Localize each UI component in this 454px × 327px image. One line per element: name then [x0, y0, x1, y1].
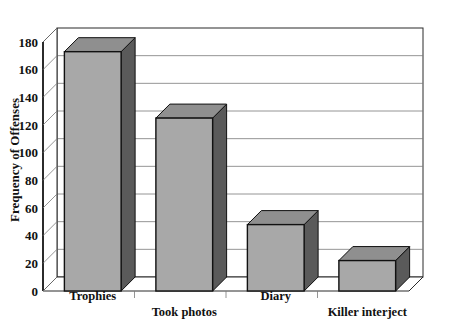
y-axis-title: Frequency of Offenses: [7, 98, 22, 222]
y-tick-label: 160: [19, 62, 39, 77]
y-tick-label: 80: [25, 173, 38, 188]
x-tick-label: Trophies: [69, 289, 116, 303]
bar-front-face: [247, 225, 304, 291]
bar-side-face: [213, 104, 227, 291]
y-tick-label: 60: [25, 201, 38, 216]
y-tick-label: 180: [19, 35, 39, 50]
bar-front-face: [156, 118, 213, 291]
x-tick-label: Took photos: [152, 305, 217, 319]
x-tick-label: Diary: [260, 289, 291, 303]
x-tick-label: Killer interject: [328, 305, 408, 319]
x-axis-tick-labels: TrophiesTook photosDiaryKiller interject: [69, 289, 407, 319]
y-tick-label: 0: [32, 284, 39, 299]
chart-figure: 020406080100120140160180 Frequency of Of…: [0, 0, 454, 327]
y-tick-label: 40: [25, 228, 38, 243]
y-tick-label: 20: [25, 256, 38, 271]
bar: [64, 38, 135, 291]
bar: [339, 247, 410, 291]
bar-front-face: [64, 52, 121, 291]
bar-side-face: [121, 38, 135, 291]
bar-front-face: [339, 261, 396, 291]
bar: [247, 211, 318, 291]
bar: [156, 104, 227, 291]
bar-chart-canvas: 020406080100120140160180 Frequency of Of…: [0, 0, 454, 327]
